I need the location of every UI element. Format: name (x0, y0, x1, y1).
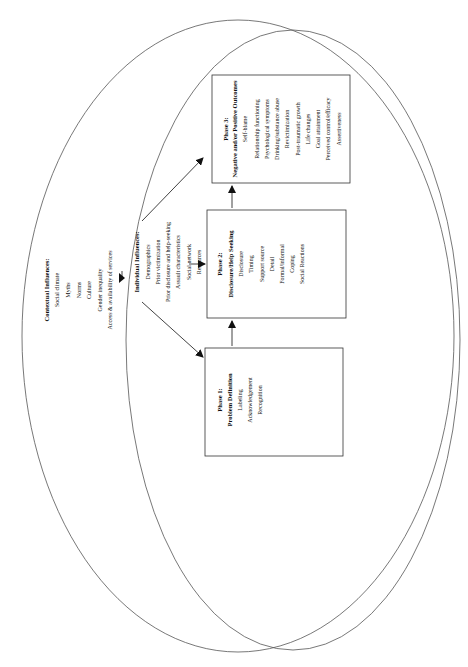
contextual-item: Culture (86, 281, 92, 299)
contextual-item: Access & availability of services (107, 250, 113, 330)
individual-item: Demographics (145, 244, 151, 280)
phase3-item: Drinking/substance abuse (274, 98, 280, 160)
individual-item: Social network (186, 244, 192, 280)
phase3-item: Relationship functioning (254, 99, 260, 159)
contextual-item: Myths (65, 282, 71, 298)
phase2-item: Disclosure (238, 251, 244, 277)
phase1-title: Phase 1: (216, 388, 223, 411)
contextual-item: Gender inequality (97, 268, 103, 311)
contextual-influences-text: Contextual Influences: Social climate My… (43, 250, 113, 330)
phase1-subtitle: Problem Definition (226, 373, 233, 427)
phase2-item: Timing (248, 255, 254, 272)
phase3-item: Psychological symptoms (264, 98, 270, 158)
phase3-item: Self-blame (242, 116, 248, 143)
contextual-item: Social climate (54, 273, 60, 307)
phase2-item: Detail (269, 256, 275, 271)
phase3-item: Assertiveness (336, 112, 342, 146)
individual-item: Prior disclosure and help-seeking (165, 222, 171, 302)
individual-title: Individual Influences: (133, 231, 140, 292)
arrow-individual-to-phase1 (142, 302, 203, 357)
phase1-item: Labeling (237, 389, 243, 410)
individual-item: Assault characteristics (175, 234, 181, 288)
individual-influences-text: Individual Influences: Demographics Prio… (133, 222, 202, 302)
phase2-item: Support source (259, 246, 265, 282)
phase2-item: Coping (289, 255, 295, 273)
phase3-item: Revictimization (284, 110, 290, 148)
contextual-item: Norms (76, 281, 82, 298)
phase1-item: Recognition (257, 385, 263, 414)
phase2-item: Formal/informal (279, 244, 285, 284)
phase3-item: Post-traumatic growth (295, 102, 301, 156)
individual-item: Resources (196, 249, 202, 274)
phase3-item: Goal attainment (315, 109, 321, 148)
diagram-canvas: Contextual Influences: Social climate My… (0, 0, 468, 667)
phase3-item: Life changes (305, 113, 311, 144)
phase3-subtitle: Negative and/or Positive Outcomes (231, 80, 238, 177)
phase3-item: Perceived control/efficacy (325, 97, 331, 160)
phase2-item: Social Reactions (299, 243, 305, 284)
phase2-title: Phase 2: (216, 252, 223, 275)
phase2-subtitle: Disclosure/Help Seeking (227, 230, 234, 298)
individual-item: Prior victimization (155, 239, 161, 284)
arrow-individual-to-phase3 (142, 158, 203, 221)
phase1-item: Acknowledgement (247, 377, 253, 423)
contextual-title: Contextual Influences: (43, 258, 50, 321)
phase3-title: Phase 3: (222, 117, 229, 140)
